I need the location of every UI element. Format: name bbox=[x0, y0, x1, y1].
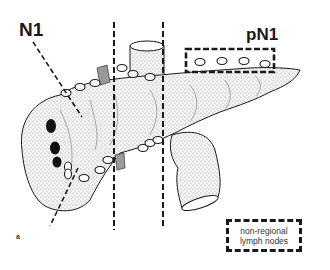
legend-non-regional-lymph-nodes: non-regional lymph nodes bbox=[226, 219, 302, 252]
n1-label: N1 bbox=[19, 19, 43, 41]
legend-line-1: non-regional bbox=[240, 226, 287, 236]
legend-line-2: lymph nodes bbox=[240, 236, 288, 246]
pn1-label: pN1 bbox=[246, 25, 278, 45]
grey-vessel-bottom bbox=[115, 153, 125, 170]
panel-label: a bbox=[16, 233, 20, 240]
duodenum bbox=[170, 132, 220, 213]
